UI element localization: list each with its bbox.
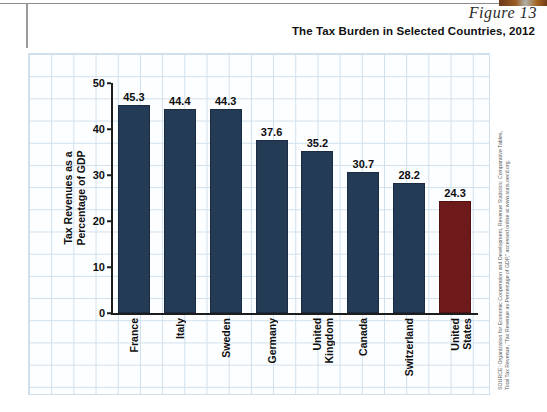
bar-value-label: 30.7 [353,158,374,170]
y-axis-title-line1: Tax Revenues as a [62,151,74,244]
bar-france[interactable]: 45.3 [118,105,150,313]
bar-germany[interactable]: 37.6 [256,140,288,313]
source-note: SOURCE: Organization for Economic Cooper… [497,56,541,390]
y-axis-tick-mark [107,128,111,130]
bar-value-label: 24.3 [444,187,465,199]
bar-value-label: 37.6 [261,126,282,138]
bar-switzerland[interactable]: 28.2 [393,183,425,313]
plot-area: 0102030405045.344.444.337.635.230.728.22… [111,83,478,313]
page-top-rule [0,3,547,4]
figure-number-label: Figure 13 [469,4,537,22]
y-axis-title: Tax Revenues as a Percentage of GDP [62,83,88,313]
bar-united-kingdom[interactable]: 35.2 [301,151,333,313]
y-axis-tick-mark [107,174,111,176]
y-axis-title-line2: Percentage of GDP [75,150,87,245]
y-axis-tick-mark [107,266,111,268]
x-axis-label-france: France [128,318,140,352]
bar-canada[interactable]: 30.7 [347,172,379,313]
y-axis-tick-mark [107,82,111,84]
bar-value-label: 28.2 [398,169,419,181]
bar-value-label: 44.3 [215,95,236,107]
x-axis-label-united-kingdom: United Kingdom [311,318,335,364]
bar-sweden[interactable]: 44.3 [210,109,242,313]
x-axis-label-united-states: United States [449,318,473,351]
bar-italy[interactable]: 44.4 [164,109,196,313]
x-axis-label-germany: Germany [266,318,278,364]
source-note-line-2: Total Tax Revenue, “Tax Revenue as Perce… [504,56,511,390]
bar-united-states[interactable]: 24.3 [439,201,471,313]
bar-value-label: 45.3 [123,91,144,103]
x-axis-label-italy: Italy [174,318,186,339]
x-axis-label-switzerland: Switzerland [403,318,415,376]
bar-value-label: 35.2 [307,137,328,149]
figure-page: Figure 13 The Tax Burden in Selected Cou… [0,0,547,412]
x-axis-label-sweden: Sweden [220,318,232,358]
chart-title: The Tax Burden in Selected Countries, 20… [292,25,535,37]
y-axis-tick-mark [107,220,111,222]
bar-value-label: 44.4 [169,95,190,107]
y-axis-tick-mark [107,312,111,314]
x-axis-label-canada: Canada [357,318,369,356]
x-axis-line [111,313,478,315]
page-left-rule [26,4,28,48]
source-note-line-1: SOURCE: Organization for Economic Cooper… [497,56,504,390]
